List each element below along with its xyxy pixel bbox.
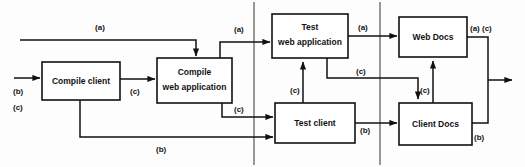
edge-label-compile-chain-c: (c) — [130, 87, 140, 96]
edge-label-stage1-out-c: (c) — [234, 105, 244, 114]
edge-label-testclient-out-b: (b) — [360, 126, 371, 135]
edge-web-docs-to-exit — [467, 37, 488, 80]
node-label-client-docs: Client Docs — [412, 119, 459, 129]
node-label-test-client: Test client — [294, 118, 336, 128]
edge-label-testweb-down-c: (c) — [356, 67, 366, 76]
edge-top-a-to-compile-web-app — [20, 40, 196, 56]
edge-compile-web-app-to-test-web-app — [220, 42, 270, 58]
edge-label-stage1-out-a: (a) — [234, 25, 244, 34]
edge-label-input-c: (c) — [13, 103, 23, 112]
edge-compile-client-to-test-client-b — [80, 100, 273, 137]
flow-diagram-canvas: Compile client Compile web application T… — [0, 0, 525, 167]
node-label-test-web-app-line2: web application — [277, 37, 342, 47]
flow-diagram: Compile client Compile web application T… — [0, 0, 525, 167]
edge-client-docs-to-exit — [472, 80, 488, 123]
node-test-web-app — [272, 14, 348, 58]
edge-label-testweb-up-c: (c) — [290, 86, 300, 95]
edge-compile-web-app-to-test-client-c — [222, 103, 273, 117]
node-label-test-web-app-line1: Test — [302, 22, 319, 32]
node-label-compile-web-app-line2: web application — [162, 82, 227, 92]
edge-label-input-b: (b) — [13, 87, 24, 96]
edge-label-bottom-b: (b) — [156, 145, 167, 154]
edge-label-clientdocs-out-b: (b) — [474, 133, 485, 142]
edge-label-clientdocs-up-c: (c) — [420, 86, 430, 95]
edge-label-testweb-out-a: (a) — [358, 23, 368, 32]
edge-label-webdocs-out-ac: (a) (c) — [470, 24, 492, 33]
node-label-compile-client: Compile client — [52, 76, 110, 86]
node-label-web-docs: Web Docs — [413, 32, 454, 42]
edge-test-web-app-to-client-docs-c — [327, 58, 418, 99]
node-label-compile-web-app-line1: Compile — [178, 67, 212, 77]
edge-label-top-a: (a) — [95, 23, 105, 32]
node-compile-web-app — [157, 58, 232, 103]
